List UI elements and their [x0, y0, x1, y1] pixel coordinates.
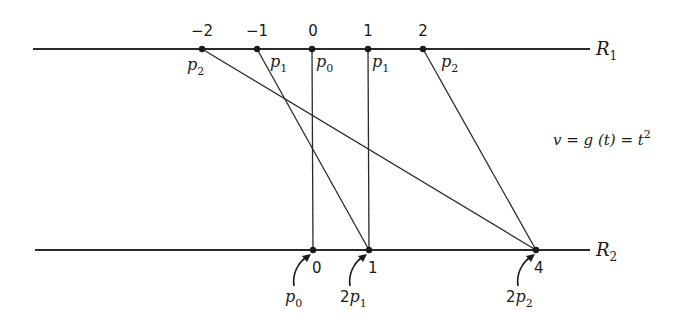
r1-point-label-p1-left: p1	[270, 52, 287, 75]
r1-point-label-p2-left: p2	[187, 55, 204, 78]
r2-point-1	[366, 247, 372, 253]
mapping-line-0-to-0	[312, 49, 313, 250]
r2-point-0	[310, 247, 316, 253]
mapping-line-2-to-4	[423, 49, 536, 250]
r2-points: 0 1 4 p0 2p1 2p2	[285, 247, 544, 310]
r2-annotation-2p2: 2p2	[506, 287, 533, 310]
r1-point-label-p1-right: p1	[372, 52, 389, 75]
r1-value-neg1: −1	[246, 22, 268, 40]
r1-point-neg2	[199, 46, 205, 52]
r2-value-1: 1	[368, 259, 378, 277]
r1-point-1	[365, 46, 371, 52]
r1-point-label-p2-right: p2	[441, 52, 458, 75]
r1-point-label-p0: p0	[316, 52, 333, 75]
r1-value-1: 1	[363, 22, 373, 40]
line-r2-label: R2	[595, 239, 617, 264]
r1-value-2: 2	[418, 22, 428, 40]
r1-point-neg1	[254, 46, 260, 52]
r1-point-2	[420, 46, 426, 52]
r2-point-4	[533, 247, 539, 253]
line-r1-label: R1	[595, 38, 617, 63]
diagram-canvas: R1 R2 −2 −1 0 1 2 p2 p1 p0	[0, 0, 692, 327]
r1-value-neg2: −2	[191, 22, 213, 40]
r1-point-0	[309, 46, 315, 52]
arrowhead-icon-1	[358, 254, 367, 262]
mapping-line-1-to-1	[368, 49, 369, 250]
r2-annotation-2p1: 2p1	[340, 287, 367, 310]
mapping-lines	[202, 49, 536, 250]
r2-value-4: 4	[534, 259, 544, 277]
r2-value-0: 0	[312, 259, 322, 277]
mapping-formula: v = g (t) = t2	[553, 128, 651, 149]
r2-annotation-p0: p0	[285, 287, 302, 310]
arrowhead-icon-0	[302, 254, 311, 262]
r1-value-0: 0	[308, 22, 318, 40]
